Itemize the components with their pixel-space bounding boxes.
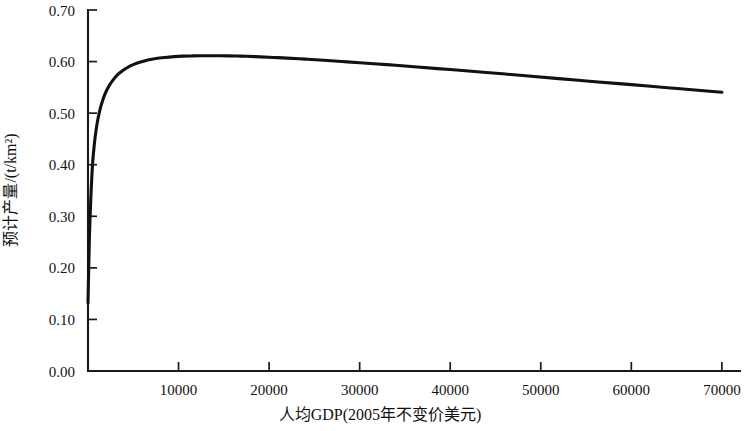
y-axis-title: 预计产量/(t/km²) <box>2 133 20 246</box>
x-tick-label: 10000 <box>160 382 198 398</box>
y-tick-label: 0.70 <box>49 3 75 19</box>
y-tick-label: 0.30 <box>49 209 75 225</box>
y-tick-label: 0.10 <box>49 312 75 328</box>
x-tick-label: 70000 <box>703 382 741 398</box>
x-tick-label: 60000 <box>613 382 651 398</box>
data-series-line <box>88 56 722 303</box>
chart-canvas: 0.000.100.200.300.400.500.600.70 1000020… <box>0 0 752 431</box>
x-tick-label: 40000 <box>431 382 469 398</box>
x-tick-label: 50000 <box>522 382 560 398</box>
chart-figure: 0.000.100.200.300.400.500.600.70 1000020… <box>0 0 752 431</box>
x-axis-ticks <box>179 362 722 371</box>
y-axis-tick-labels: 0.000.100.200.300.400.500.600.70 <box>49 3 75 380</box>
x-axis-tick-labels: 10000200003000040000500006000070000 <box>160 382 741 398</box>
x-axis-title: 人均GDP(2005年不变价美元) <box>279 406 482 424</box>
y-tick-label: 0.40 <box>49 157 75 173</box>
x-tick-label: 30000 <box>341 382 379 398</box>
y-tick-label: 0.50 <box>49 106 75 122</box>
x-tick-label: 20000 <box>250 382 288 398</box>
axis-spines <box>88 10 740 371</box>
y-tick-label: 0.60 <box>49 54 75 70</box>
y-tick-label: 0.20 <box>49 260 75 276</box>
y-tick-label: 0.00 <box>49 364 75 380</box>
